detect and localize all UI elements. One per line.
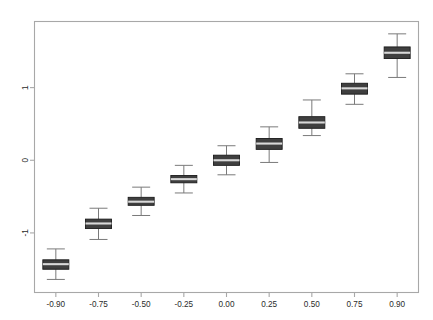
x-tick-label: -0.25	[174, 300, 193, 309]
y-tick-label: 0	[21, 158, 30, 163]
x-tick-label: 0.00	[219, 300, 235, 309]
y-tick-label: 1	[21, 85, 30, 90]
x-tick-label: -0.75	[89, 300, 108, 309]
boxplot-canvas: 10-1-0.90-0.75-0.50-0.250.000.250.500.75…	[0, 0, 433, 320]
x-tick-label: 0.90	[389, 300, 405, 309]
boxplot-figure: 10-1-0.90-0.75-0.50-0.250.000.250.500.75…	[0, 0, 433, 320]
x-tick-label: -0.90	[46, 300, 65, 309]
x-tick-label: 0.75	[347, 300, 363, 309]
x-tick-label: 0.25	[261, 300, 277, 309]
y-tick-label: -1	[21, 229, 30, 237]
x-tick-label: 0.50	[304, 300, 320, 309]
x-tick-label: -0.50	[132, 300, 151, 309]
